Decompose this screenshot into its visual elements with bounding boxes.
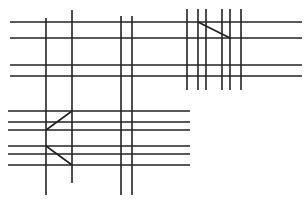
line-diagram — [0, 0, 308, 204]
